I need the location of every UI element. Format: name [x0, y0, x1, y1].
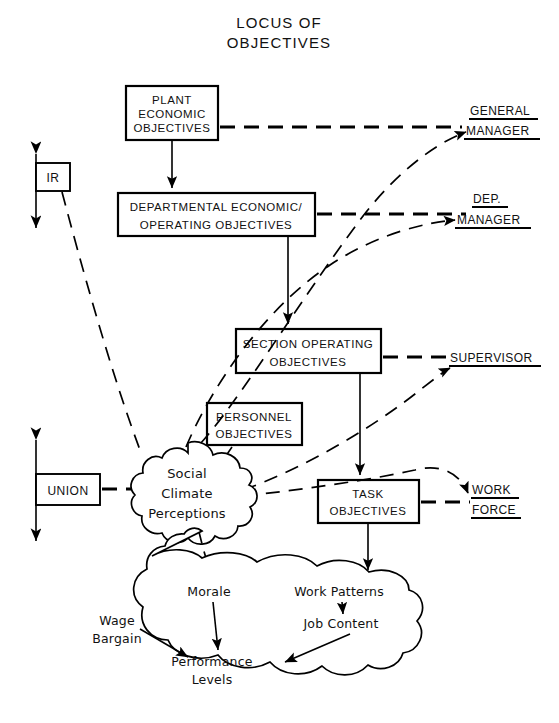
role-dep-manager-line-1: DEP.: [473, 192, 501, 206]
diagram-canvas: LOCUS OF OBJECTIVES IR UNION PLANT ECONO…: [0, 0, 559, 723]
title-line-2: OBJECTIVES: [227, 34, 331, 51]
box-task-objectives[interactable]: TASK OBJECTIVES: [318, 480, 419, 523]
box-ir-label: IR: [47, 171, 60, 185]
role-work-force-line-1: WORK: [472, 483, 511, 497]
box-personnel-line-2: OBJECTIVES: [215, 428, 292, 440]
cloud-outcomes[interactable]: Morale Work Patterns Wage Bargain Job Co…: [92, 528, 422, 687]
box-departmental-line-1: DEPARTMENTAL ECONOMIC/: [130, 201, 303, 213]
cloud-social-line-2: Climate: [161, 486, 212, 501]
outcome-wage-bargain-line-2: Bargain: [92, 631, 142, 646]
arrow-work-patterns-to-job-content: [342, 602, 343, 614]
box-plant-line-1: PLANT: [152, 94, 192, 106]
box-personnel-objectives[interactable]: PERSONNEL OBJECTIVES: [207, 403, 302, 445]
outcome-morale: Morale: [187, 584, 231, 599]
box-plant-line-3: OBJECTIVES: [133, 122, 210, 134]
role-dep-manager[interactable]: DEP. MANAGER: [455, 192, 531, 228]
role-work-force[interactable]: WORK FORCE: [471, 483, 521, 518]
outcome-work-patterns: Work Patterns: [294, 584, 384, 599]
role-work-force-line-2: FORCE: [472, 503, 516, 517]
box-task-line-1: TASK: [352, 488, 383, 500]
role-general-manager[interactable]: GENERAL MANAGER: [464, 104, 540, 139]
box-plant-economic-objectives[interactable]: PLANT ECONOMIC OBJECTIVES: [126, 86, 218, 140]
box-section-line-2: OBJECTIVES: [269, 356, 346, 368]
role-dep-manager-line-2: MANAGER: [457, 213, 520, 227]
box-departmental-line-2: OPERATING OBJECTIVES: [140, 219, 293, 231]
outcome-job-content: Job Content: [302, 616, 378, 631]
box-ir[interactable]: IR: [36, 163, 70, 191]
cloud-social-line-1: Social: [167, 466, 207, 481]
box-section-line-1: SECTION OPERATING: [243, 338, 374, 350]
box-task-line-2: OBJECTIVES: [329, 505, 406, 517]
role-general-manager-line-2: MANAGER: [466, 124, 529, 138]
box-union-label: UNION: [47, 484, 88, 498]
curve-social-climate-to-general-manager: [200, 132, 466, 444]
outcome-wage-bargain-line-1: Wage: [99, 613, 135, 628]
role-supervisor[interactable]: SUPERVISOR: [449, 351, 541, 366]
outcome-performance-line-1: Performance: [171, 654, 253, 669]
role-supervisor-label: SUPERVISOR: [450, 351, 532, 365]
locus-of-objectives-diagram: LOCUS OF OBJECTIVES IR UNION PLANT ECONO…: [0, 0, 559, 723]
box-departmental-objectives[interactable]: DEPARTMENTAL ECONOMIC/ OPERATING OBJECTI…: [118, 193, 315, 236]
title-line-1: LOCUS OF: [236, 14, 321, 31]
cloud-social-line-3: Perceptions: [148, 506, 226, 521]
role-general-manager-line-1: GENERAL: [470, 104, 530, 118]
box-personnel-line-1: PERSONNEL: [216, 411, 292, 423]
box-union[interactable]: UNION: [36, 474, 100, 505]
box-plant-line-2: ECONOMIC: [138, 108, 206, 120]
outcome-performance-line-2: Levels: [192, 672, 233, 687]
